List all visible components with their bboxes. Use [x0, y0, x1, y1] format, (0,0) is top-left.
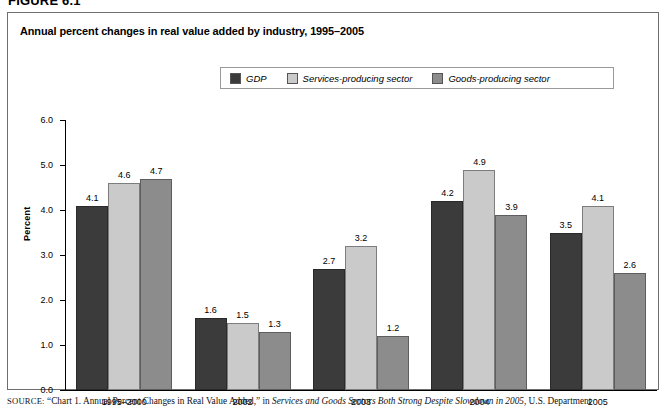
y-axis-tick: 2.0 — [60, 300, 65, 301]
bar-group: 1.61.51.3 — [195, 120, 291, 390]
y-axis-tick: 3.0 — [60, 255, 65, 256]
chart-title: Annual percent changes in real value add… — [20, 25, 364, 37]
bar-slot: 1.5 — [227, 120, 259, 390]
y-axis-tick: 5.0 — [60, 165, 65, 166]
bar[interactable] — [227, 323, 259, 391]
bar-value-label: 1.3 — [268, 319, 281, 329]
bar[interactable] — [76, 206, 108, 391]
y-axis-tick: 6.0 — [60, 120, 65, 121]
y-axis-tick: 4.0 — [60, 210, 65, 211]
figure-box: Annual percent changes in real value add… — [7, 12, 659, 390]
source-italic-title: Services and Goods Sectors Both Strong D… — [272, 396, 524, 406]
bar[interactable] — [313, 269, 345, 391]
y-axis-tick: 0.0 — [60, 390, 65, 391]
bar-value-label: 1.6 — [204, 305, 217, 315]
bar-slot: 4.2 — [431, 120, 463, 390]
legend-label: Goods-producing sector — [448, 73, 549, 84]
bar-value-label: 4.6 — [118, 170, 131, 180]
bar-value-label: 3.9 — [505, 202, 518, 212]
y-axis-line — [65, 120, 66, 391]
bar[interactable] — [582, 206, 614, 391]
bar[interactable] — [195, 318, 227, 390]
y-axis-tick-label: 1.0 — [40, 340, 53, 350]
bar-slot: 4.1 — [582, 120, 614, 390]
bar[interactable] — [550, 233, 582, 391]
source-tail: , U.S. Department — [524, 396, 591, 406]
bar[interactable] — [345, 246, 377, 390]
bar-value-label: 2.6 — [624, 260, 637, 270]
bar-group: 4.14.64.7 — [76, 120, 172, 390]
bar-slot: 1.2 — [377, 120, 409, 390]
bar-value-label: 2.7 — [323, 256, 336, 266]
legend-swatch-goods — [432, 73, 443, 84]
bar[interactable] — [140, 179, 172, 391]
bar-slot: 4.7 — [140, 120, 172, 390]
bar[interactable] — [377, 336, 409, 390]
legend-item: Services-producing sector — [287, 73, 413, 84]
y-axis-tick-label: 6.0 — [40, 115, 53, 125]
y-axis-tick-label: 4.0 — [40, 205, 53, 215]
bar[interactable] — [259, 332, 291, 391]
legend-item: GDP — [230, 73, 267, 84]
y-axis-tick-label: 0.0 — [40, 385, 53, 395]
bar-group: 2.73.21.2 — [313, 120, 409, 390]
bar-slot: 1.3 — [259, 120, 291, 390]
bar-value-label: 3.5 — [560, 220, 573, 230]
bar[interactable] — [108, 183, 140, 390]
bar-slot: 4.1 — [76, 120, 108, 390]
source-note: SOURCE: “Chart 1. Annual Percent Changes… — [7, 396, 663, 408]
bar-slot: 3.9 — [495, 120, 527, 390]
y-axis-tick: 1.0 — [60, 345, 65, 346]
y-axis-tick-label: 3.0 — [40, 250, 53, 260]
bar[interactable] — [431, 201, 463, 390]
legend-label: Services-producing sector — [303, 73, 413, 84]
bar-value-label: 4.1 — [592, 193, 605, 203]
bar-group: 3.54.12.6 — [550, 120, 646, 390]
bar-slot: 3.5 — [550, 120, 582, 390]
bar[interactable] — [495, 215, 527, 391]
y-axis-title: Percent — [22, 207, 32, 241]
bar-slot: 1.6 — [195, 120, 227, 390]
bar-slot: 2.7 — [313, 120, 345, 390]
bar-slot: 3.2 — [345, 120, 377, 390]
bar-slot: 4.6 — [108, 120, 140, 390]
y-axis-tick-label: 5.0 — [40, 160, 53, 170]
bar[interactable] — [463, 170, 495, 391]
legend-label: GDP — [246, 73, 267, 84]
source-label: SOURCE: — [7, 396, 45, 406]
bar[interactable] — [614, 273, 646, 390]
chart-legend: GDPServices-producing sectorGoods-produc… — [220, 67, 614, 89]
bar-value-label: 1.5 — [236, 310, 249, 320]
bar-value-label: 4.1 — [86, 193, 99, 203]
bar-group: 4.24.93.9 — [431, 120, 527, 390]
legend-swatch-services — [287, 73, 298, 84]
bar-slot: 2.6 — [614, 120, 646, 390]
bar-value-label: 3.2 — [355, 233, 368, 243]
plot-area: 6.05.04.03.02.01.00.04.14.64.71995–20001… — [65, 120, 657, 391]
bar-value-label: 1.2 — [387, 323, 400, 333]
bar-value-label: 4.7 — [150, 166, 163, 176]
bar-slot: 4.9 — [463, 120, 495, 390]
bar-value-label: 4.2 — [441, 188, 454, 198]
bar-value-label: 4.9 — [473, 157, 486, 167]
legend-item: Goods-producing sector — [432, 73, 549, 84]
figure-number: FIGURE 6.1 — [8, 0, 81, 6]
source-text: “Chart 1. Annual Percent Changes in Real… — [47, 396, 272, 406]
x-axis-line — [65, 390, 657, 391]
y-axis-tick-label: 2.0 — [40, 295, 53, 305]
legend-swatch-gdp — [230, 73, 241, 84]
